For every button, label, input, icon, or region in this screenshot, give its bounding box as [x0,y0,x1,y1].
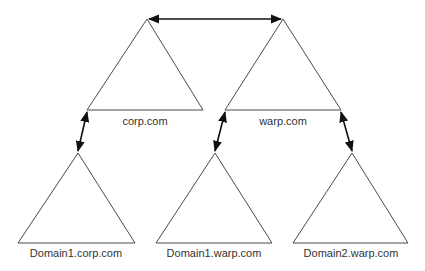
domain-triangle [156,153,272,243]
domain-node-warp: warp.com [225,19,341,127]
domain-triangle [293,153,408,243]
domain-label: Domain1.warp.com [167,247,262,259]
domain-nodes: corp.comwarp.comDomain1.corp.comDomain1.… [18,19,408,259]
domain-node-d1corp: Domain1.corp.com [18,153,135,259]
trust-arrow-warp-d2warp [341,112,352,151]
domain-label: Domain2.warp.com [304,247,399,259]
domain-trust-diagram: corp.comwarp.comDomain1.corp.comDomain1.… [0,0,425,271]
trust-arrow-corp-d1corp [78,112,87,151]
domain-triangle [87,19,203,110]
trust-links [78,19,352,151]
domain-node-d1warp: Domain1.warp.com [156,153,272,259]
domain-label: corp.com [122,115,167,127]
domain-node-d2warp: Domain2.warp.com [293,153,408,259]
domain-triangle [18,153,135,243]
domain-triangle [225,19,341,110]
domain-label: warp.com [258,115,307,127]
trust-arrow-warp-d1warp [215,112,225,151]
domain-label: Domain1.corp.com [30,247,122,259]
domain-node-corp: corp.com [87,19,203,127]
